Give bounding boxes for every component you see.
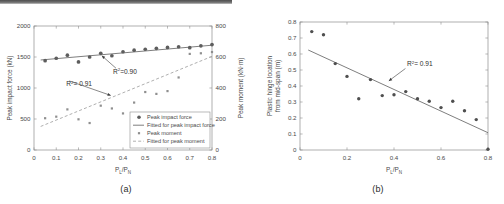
data-point-plastic-hinge bbox=[369, 78, 372, 81]
x-axis-title: PL/PN bbox=[386, 166, 402, 175]
fit-line-peak-impact-force bbox=[41, 45, 212, 60]
data-point-peak-moment bbox=[55, 116, 57, 118]
data-point-peak-impact-force bbox=[132, 48, 136, 52]
data-point-plastic-hinge bbox=[357, 97, 360, 100]
y-tick-label-right: 800 bbox=[216, 22, 227, 29]
data-point-peak-moment bbox=[111, 107, 113, 109]
data-point-peak-moment bbox=[89, 122, 91, 124]
annotation-r-squared: R2= 0.91 bbox=[66, 80, 111, 96]
svg-text:R2= 0.91: R2= 0.91 bbox=[407, 60, 433, 67]
annotation-r-squared: R2=0.90 bbox=[102, 56, 137, 75]
data-point-plastic-hinge bbox=[334, 62, 337, 65]
data-point-plastic-hinge bbox=[310, 30, 313, 33]
data-point-peak-impact-force bbox=[143, 47, 147, 51]
data-point-peak-moment bbox=[77, 118, 79, 120]
data-point-peak-impact-force bbox=[88, 55, 92, 59]
data-point-peak-impact-force bbox=[177, 45, 181, 49]
y-tick-label-left: 1500 bbox=[17, 53, 31, 60]
y-tick-label-right: 200 bbox=[216, 115, 227, 122]
data-point-plastic-hinge bbox=[392, 93, 395, 96]
y-tick-label: 0.3 bbox=[288, 98, 297, 105]
x-tick-label: 0.8 bbox=[208, 154, 217, 161]
data-point-plastic-hinge bbox=[486, 148, 489, 151]
data-point-peak-impact-force bbox=[43, 59, 47, 63]
chart-a-plot-area: 00.10.20.30.40.50.60.70.8050010001500200… bbox=[6, 22, 245, 174]
data-point-peak-moment bbox=[144, 91, 146, 93]
annotation-arrowhead bbox=[107, 93, 111, 96]
data-point-plastic-hinge bbox=[475, 118, 478, 121]
x-tick-label: 0.1 bbox=[52, 154, 61, 161]
data-point-peak-moment bbox=[133, 101, 135, 103]
x-tick-label: 0 bbox=[298, 154, 302, 161]
x-tick-label: 0.6 bbox=[163, 154, 172, 161]
x-tick-label: 0.8 bbox=[484, 154, 493, 161]
data-point-plastic-hinge bbox=[416, 97, 419, 100]
x-tick-label: 0.6 bbox=[437, 154, 446, 161]
y-tick-label: 0.6 bbox=[288, 50, 297, 57]
x-tick-label: 0.2 bbox=[74, 154, 83, 161]
legend-label: Peak moment bbox=[147, 130, 182, 136]
x-tick-label: 0 bbox=[32, 154, 36, 161]
data-point-peak-impact-force bbox=[121, 50, 125, 54]
data-point-peak-impact-force bbox=[155, 46, 159, 50]
figure-root: 00.10.20.30.40.50.60.70.8050010001500200… bbox=[0, 0, 504, 204]
y-tick-label-left: 1000 bbox=[17, 84, 31, 91]
y-tick-label-left: 500 bbox=[20, 115, 31, 122]
x-tick-label: 0.3 bbox=[96, 154, 105, 161]
legend-label: Fitted for peak impact force bbox=[147, 122, 215, 128]
annotation-arrowhead bbox=[389, 78, 392, 81]
legend-marker-square bbox=[138, 132, 140, 134]
x-tick-label: 0.7 bbox=[185, 154, 194, 161]
x-tick-label: 0.4 bbox=[119, 154, 128, 161]
y-tick-label: 0.5 bbox=[288, 66, 297, 73]
svg-text:PL/PN: PL/PN bbox=[386, 166, 402, 175]
y-tick-label: 0.1 bbox=[288, 130, 297, 137]
data-point-peak-impact-force bbox=[66, 53, 70, 57]
x-tick-label: 0.2 bbox=[343, 154, 352, 161]
legend-marker-filled-circle bbox=[137, 115, 141, 119]
data-point-peak-moment bbox=[166, 90, 168, 92]
data-point-plastic-hinge bbox=[451, 100, 454, 103]
data-point-peak-moment bbox=[189, 53, 191, 55]
data-point-peak-impact-force bbox=[110, 54, 114, 58]
legend-label: Fitted for peak moment bbox=[147, 138, 205, 144]
y-tick-label-left: 2000 bbox=[17, 22, 31, 29]
svg-text:PL/PN: PL/PN bbox=[115, 166, 131, 175]
data-point-plastic-hinge bbox=[381, 94, 384, 97]
y-tick-label: 0.8 bbox=[288, 18, 297, 25]
data-point-peak-moment bbox=[211, 51, 213, 53]
data-point-peak-moment bbox=[122, 112, 124, 114]
data-point-peak-impact-force bbox=[210, 43, 214, 47]
x-axis-title: PL/PN bbox=[115, 166, 131, 175]
panel-b-caption: (b) bbox=[252, 184, 504, 194]
y-tick-label: 0 bbox=[293, 146, 297, 153]
y-tick-label: 0.4 bbox=[288, 82, 297, 89]
data-point-plastic-hinge bbox=[463, 109, 466, 112]
y-tick-label-right: 0 bbox=[216, 146, 220, 153]
plot-frame bbox=[300, 22, 488, 150]
y-axis-title-line1: Plastic hinge location bbox=[266, 56, 274, 116]
x-tick-label: 0.5 bbox=[141, 154, 150, 161]
data-point-peak-impact-force bbox=[77, 60, 81, 64]
chart-panel-b: 00.20.40.60.800.10.20.30.40.50.60.70.8Pl… bbox=[252, 0, 504, 204]
legend-label: Peak impact force bbox=[147, 114, 192, 120]
data-point-peak-impact-force bbox=[54, 56, 58, 60]
y-tick-label: 0.7 bbox=[288, 34, 297, 41]
data-point-plastic-hinge bbox=[439, 106, 442, 109]
y-tick-label: 0.2 bbox=[288, 114, 297, 121]
data-point-peak-impact-force bbox=[166, 46, 170, 50]
data-point-plastic-hinge bbox=[428, 100, 431, 103]
data-point-peak-moment bbox=[178, 76, 180, 78]
data-point-peak-moment bbox=[155, 93, 157, 95]
chart-a-svg: 00.10.20.30.40.50.60.70.8050010001500200… bbox=[0, 0, 252, 182]
y-axis-title-left: Peak impact force (kN) bbox=[6, 56, 14, 121]
svg-text:R2=0.90: R2=0.90 bbox=[113, 67, 137, 74]
data-point-plastic-hinge bbox=[322, 33, 325, 36]
y-tick-label-left: 0 bbox=[27, 146, 31, 153]
data-point-plastic-hinge bbox=[404, 90, 407, 93]
y-axis-title: Plastic hinge locationfrom mid-span (m) bbox=[266, 56, 282, 116]
data-point-peak-moment bbox=[66, 108, 68, 110]
data-point-peak-moment bbox=[200, 52, 202, 54]
x-tick-label: 0.4 bbox=[390, 154, 399, 161]
chart-a-legend[interactable]: Peak impact forceFitted for peak impact … bbox=[130, 112, 215, 148]
